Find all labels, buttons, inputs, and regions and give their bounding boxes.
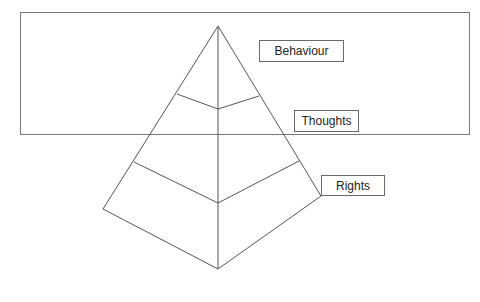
diagram-frame — [21, 13, 470, 135]
pyramid-diagram — [0, 0, 480, 302]
pyramid-outline — [103, 26, 321, 269]
label-thoughts: Thoughts — [294, 110, 359, 132]
label-rights: Rights — [321, 175, 385, 196]
label-behaviour: Behaviour — [259, 40, 344, 62]
pyramid-divider-bottom — [134, 161, 299, 203]
